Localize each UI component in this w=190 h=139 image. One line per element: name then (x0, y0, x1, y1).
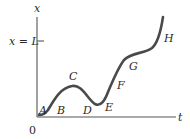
position-curve (39, 17, 163, 115)
point-label-A: A (38, 104, 47, 117)
origin-label: 0 (29, 124, 36, 137)
tick-label-L: x = L (9, 35, 39, 48)
point-label-B: B (56, 104, 65, 117)
point-label-E: E (104, 101, 113, 114)
y-axis-label: x (34, 2, 41, 15)
point-label-D: D (82, 104, 92, 117)
point-label-C: C (69, 70, 78, 83)
x-axis-label: t (178, 111, 183, 124)
position-time-graph: x t 0 x = L A B C D E F G H (0, 0, 190, 139)
point-label-H: H (163, 32, 174, 45)
point-label-G: G (129, 60, 138, 73)
point-label-F: F (116, 79, 125, 92)
